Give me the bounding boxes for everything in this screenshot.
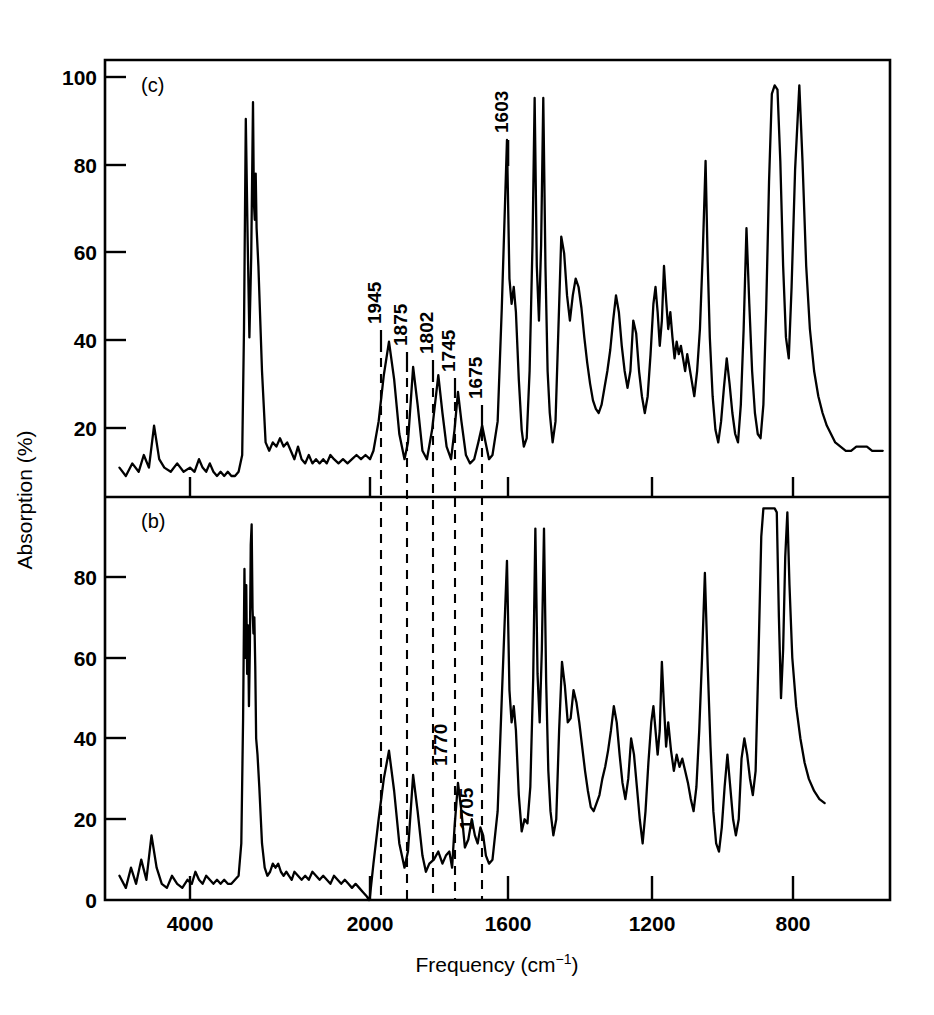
y-tick-label-c-20: 20: [74, 417, 97, 440]
y-tick-label-c-100: 100: [62, 66, 97, 89]
peak-label-c-1603: 1603: [491, 91, 512, 133]
divider-x-ticks: [190, 477, 793, 497]
peak-label-b-1770: 1770: [430, 724, 451, 766]
panel-b-annotations: 1770 1705: [430, 724, 477, 830]
y-tick-label-b-40: 40: [74, 727, 97, 750]
x-axis: 4000 2000 1600 1200 800: [167, 876, 811, 935]
y-tick-label-c-60: 60: [74, 241, 97, 264]
x-tick-label-2000: 2000: [347, 912, 394, 935]
spectrum-trace-b: [119, 508, 824, 900]
outer-border: [105, 60, 890, 900]
peak-label-c-1802: 1802: [416, 312, 437, 354]
spectrum-trace-c: [119, 85, 882, 476]
plot-frame: [105, 60, 890, 900]
y-tick-label-b-80: 80: [74, 566, 97, 589]
panel-c-y-axis: 100 80 60 40 20: [62, 66, 126, 440]
ir-spectra-figure: 100 80 60 40 20 80 60 40 20 0 4000 20: [0, 0, 934, 1015]
x-tick-label-1600: 1600: [485, 912, 532, 935]
y-axis-title: Absorption (%): [13, 431, 36, 570]
spectra-plot-canvas: 100 80 60 40 20 80 60 40 20 0 4000 20: [0, 0, 934, 1015]
panel-tag-b: (b): [141, 510, 165, 532]
peak-label-c-1875: 1875: [390, 303, 411, 346]
peak-label-c-1945: 1945: [364, 281, 385, 324]
x-tick-label-1200: 1200: [629, 912, 676, 935]
x-tick-label-4000: 4000: [167, 912, 214, 935]
y-tick-label-b-0: 0: [85, 889, 97, 912]
y-tick-label-c-80: 80: [74, 154, 97, 177]
peak-label-c-1745: 1745: [438, 329, 459, 372]
x-axis-title: Frequency (cm−1): [415, 951, 578, 976]
y-tick-label-c-40: 40: [74, 329, 97, 352]
panel-b-y-axis: 80 60 40 20 0: [74, 566, 126, 912]
y-tick-label-b-60: 60: [74, 647, 97, 670]
x-tick-label-800: 800: [775, 912, 810, 935]
y-tick-label-b-20: 20: [74, 808, 97, 831]
panel-tag-c: (c): [141, 74, 164, 96]
peak-label-c-1675: 1675: [465, 356, 486, 399]
